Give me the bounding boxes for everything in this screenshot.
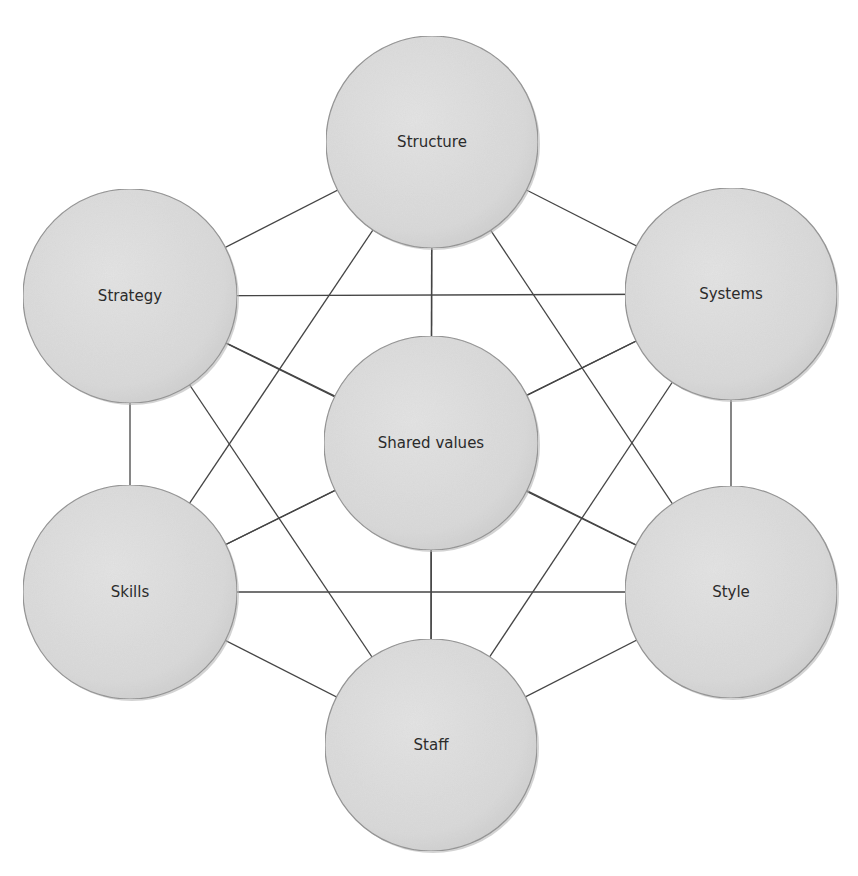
node-label: Systems [699,285,763,303]
node-label: Structure [397,133,467,151]
node-systems: Systems [625,188,839,402]
cropped-caption [0,864,858,876]
node-label: Strategy [98,287,162,305]
seven-s-diagram: StructureStrategySystemsShared valuesSki… [0,0,858,876]
node-skills: Skills [23,485,239,701]
node-style: Style [625,486,839,700]
node-staff: Staff [325,639,539,853]
node-label: Skills [111,583,150,601]
node-strategy: Strategy [23,189,239,405]
node-label: Shared values [378,434,485,452]
node-label: Staff [414,736,450,754]
node-label: Style [712,583,750,601]
node-structure: Structure [326,36,540,250]
node-shared-values: Shared values [324,336,540,552]
element-nodes: StructureStrategySystemsShared valuesSki… [23,36,839,853]
